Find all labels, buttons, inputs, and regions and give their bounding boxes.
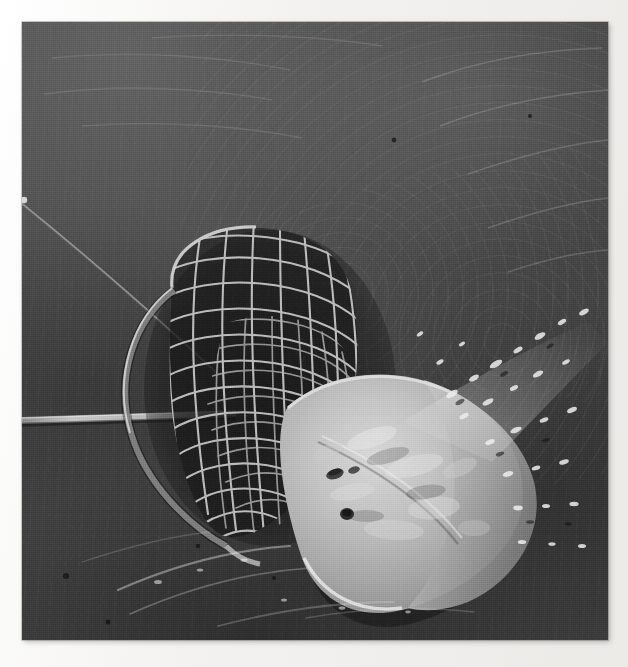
photo-page: Landing net and stingray in shallow wate… [0,0,628,667]
film-grain-secondary [22,22,608,640]
photograph [22,22,608,640]
